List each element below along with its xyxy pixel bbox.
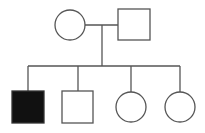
mother-unaffected-female — [55, 10, 85, 40]
pedigree-chart — [0, 0, 205, 133]
daughter-unaffected-female-2 — [165, 92, 195, 122]
father-unaffected-male — [118, 9, 150, 40]
son-unaffected-male — [62, 91, 93, 123]
son-affected-male — [12, 91, 44, 123]
daughter-unaffected-female-1 — [116, 92, 146, 122]
